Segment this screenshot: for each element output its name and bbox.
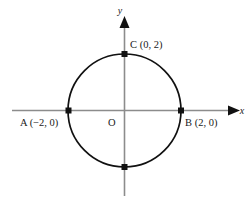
point-label-c: C (0, 2) [130, 39, 163, 51]
point-marker-d [122, 164, 128, 170]
point-label-a: A (−2, 0) [20, 117, 59, 129]
y-axis-label: y [117, 5, 123, 16]
x-axis-label: x [239, 105, 245, 116]
coordinate-plane-figure: C (0, 2) A (−2, 0) B (2, 0) O x y [0, 0, 251, 201]
origin-label: O [108, 117, 116, 128]
point-label-b: B (2, 0) [185, 117, 218, 129]
point-marker-b [178, 108, 184, 114]
x-axis-arrowhead [228, 106, 240, 116]
point-marker-c [122, 51, 128, 57]
point-marker-a [66, 108, 72, 114]
geometry-diagram: C (0, 2) A (−2, 0) B (2, 0) O x y [0, 0, 251, 201]
y-axis-arrowhead [120, 16, 130, 28]
